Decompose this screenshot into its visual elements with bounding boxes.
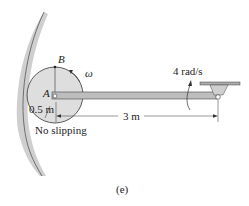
label-radius: 0.5 m [29,104,54,115]
label-angular-velocity: 4 rad/s [173,66,203,77]
label-no-slipping: No slipping [35,125,87,136]
rod [52,92,217,99]
mechanics-figure: B ω A 4 rad/s 0.5 m 3 m No slipping (e) [0,0,249,206]
label-length: 3 m [123,111,140,122]
support-plate [200,82,240,85]
figure-caption: (e) [116,184,128,195]
label-omega: ω [85,68,93,79]
label-point-a: A [43,88,50,99]
label-point-b: B [58,54,65,65]
